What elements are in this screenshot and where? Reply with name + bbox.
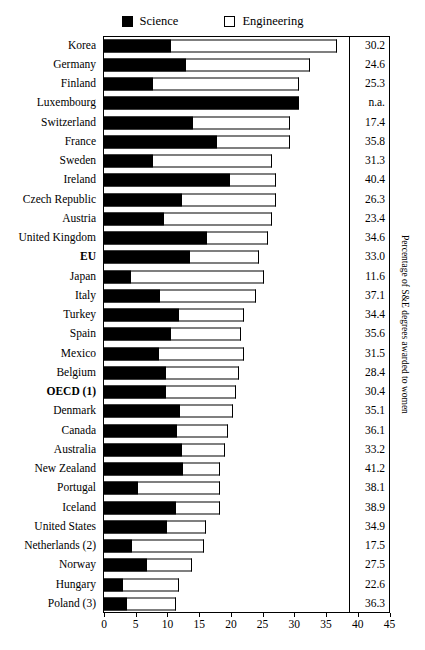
x-axis-tick [326,613,327,617]
row-value-label: 34.4 [349,309,385,321]
chart-container: Science Engineering Korea30.2Germany24.6… [0,0,425,650]
bar-segment-science [104,347,159,360]
bar-segment-engineering [167,520,205,533]
bar-segment-engineering [131,270,264,283]
bar-row: Austria23.4 [0,209,425,228]
category-label: EU [80,252,96,264]
row-value-label: 36.3 [349,598,385,610]
category-label: Austria [62,213,96,225]
row-value-label: 40.4 [349,175,385,187]
bar-segment-engineering [180,405,233,418]
category-label: OECD (1) [46,386,96,398]
row-value-label: 35.1 [349,406,385,418]
row-value-label: 36.1 [349,425,385,437]
stacked-bar [104,155,272,168]
category-label: Japan [70,271,96,283]
x-axis-tick [263,613,264,617]
row-value-label: 38.9 [349,502,385,514]
category-label: Korea [68,40,96,52]
stacked-bar [104,443,225,456]
category-label: Iceland [62,502,96,514]
bar-row: Japan11.6 [0,267,425,286]
bar-segment-engineering [164,212,272,225]
bar-row: Portugal38.1 [0,479,425,498]
x-axis-tick-label: 45 [384,619,396,631]
x-axis-tick-label: 15 [193,619,205,631]
bar-segment-science [104,328,171,341]
stacked-bar [104,270,265,283]
y-axis-title: Percentage of S&E degrees awarded to wom… [393,36,415,613]
stacked-bar [104,212,272,225]
stacked-bar [104,347,244,360]
bar-row: Hungary22.6 [0,575,425,594]
bar-segment-science [104,463,183,476]
bar-segment-engineering [179,309,244,322]
bar-row: OECD (1)30.4 [0,383,425,402]
bar-row: Turkey34.4 [0,306,425,325]
row-value-label: 37.1 [349,290,385,302]
bar-row: Mexico31.5 [0,344,425,363]
bar-row: Belgium28.4 [0,363,425,382]
bar-segment-engineering [160,289,256,302]
row-value-label: 11.6 [349,271,385,283]
bar-segment-engineering [171,328,241,341]
x-axis-tick [167,613,168,617]
bar-segment-science [104,116,193,129]
bar-segment-engineering [207,232,268,245]
bar-segment-science [104,386,166,399]
x-axis-tick [390,613,391,617]
x-axis-tick-label: 30 [289,619,301,631]
category-label: Turkey [63,309,96,321]
bar-segment-science [104,578,123,591]
category-label: United States [34,521,96,533]
bar-segment-science [104,135,217,148]
bar-row: New Zealand41.2 [0,460,425,479]
category-label: Sweden [60,155,96,167]
bar-segment-engineering [177,424,228,437]
row-value-label: 33.0 [349,252,385,264]
stacked-bar [104,366,239,379]
bar-row: Germany24.6 [0,55,425,74]
bar-row: Netherlands (2)17.5 [0,537,425,556]
category-label: Switzerland [41,117,96,129]
category-label: Czech Republic [23,194,96,206]
bar-segment-science [104,540,132,553]
category-label: Italy [75,290,96,302]
bar-row: Sweden31.3 [0,152,425,171]
category-label: Belgium [56,367,96,379]
bar-segment-science [104,155,153,168]
bar-segment-engineering [182,193,276,206]
bar-rows: Korea30.2Germany24.6Finland25.3Luxembour… [0,36,425,614]
stacked-bar [104,501,220,514]
category-label: United Kingdom [18,232,96,244]
x-axis-tick-label: 25 [257,619,269,631]
bar-segment-science [104,232,207,245]
category-label: France [65,136,96,148]
x-axis-tick-label: 35 [320,619,332,631]
chart-legend: Science Engineering [0,10,425,32]
bar-row: Norway27.5 [0,556,425,575]
bar-row: France35.8 [0,132,425,151]
category-label: Hungary [56,579,96,591]
bar-row: Czech Republic26.3 [0,190,425,209]
stacked-bar [104,78,299,91]
bar-segment-engineering [127,597,176,610]
category-label: Poland (3) [48,598,96,610]
stacked-bar [104,135,290,148]
bar-segment-science [104,174,230,187]
row-value-label: n.a. [349,98,385,110]
bar-row: Poland (3)36.3 [0,594,425,613]
bar-segment-engineering [176,501,220,514]
bar-segment-engineering [138,482,220,495]
bar-segment-science [104,97,299,110]
row-value-label: 35.8 [349,136,385,148]
stacked-bar [104,540,204,553]
bar-row: Italy37.1 [0,286,425,305]
stacked-bar [104,251,259,264]
row-value-label: 17.5 [349,540,385,552]
bar-row: Canada36.1 [0,421,425,440]
row-value-label: 17.4 [349,117,385,129]
stacked-bar [104,386,236,399]
x-axis-tick [294,613,295,617]
row-value-label: 38.1 [349,483,385,495]
